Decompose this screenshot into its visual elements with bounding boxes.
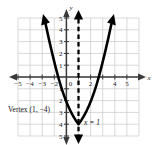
coordinate-plane-svg: −5 −4 −3 −2 0 2 4 5 5 4 3 2 1 1 2 3 4 5 … — [0, 0, 157, 145]
y-tick-label-3: 3 — [59, 38, 63, 46]
parabola-graph-figure: −5 −4 −3 −2 0 2 4 5 5 4 3 2 1 1 2 3 4 5 … — [0, 0, 157, 145]
symmetry-top-arrow — [74, 10, 83, 20]
axis-of-symmetry-annotation-label: x = 1 — [83, 118, 100, 127]
y-axis-label: y — [68, 4, 73, 12]
y-tick-label--4: 4 — [59, 121, 63, 129]
x-axis-right-arrow — [138, 74, 146, 81]
x-tick-label--4: −4 — [26, 80, 34, 88]
vertex-annotation-label: Vertex (1, −4) — [8, 105, 50, 114]
x-tick-label--5: −5 — [14, 80, 22, 88]
x-axis-label: x — [146, 74, 151, 82]
y-tick-label--2: 2 — [59, 97, 63, 105]
y-tick-label-1: 1 — [59, 62, 63, 70]
x-tick-label-2: 2 — [89, 80, 93, 88]
y-tick-label--3: 3 — [59, 109, 63, 117]
x-tick-label--2: −2 — [51, 80, 59, 88]
y-axis-bottom-arrow — [63, 137, 69, 145]
y-tick-label-2: 2 — [59, 50, 63, 58]
x-tick-label-4: 4 — [113, 80, 117, 88]
y-tick-label-5: 5 — [59, 15, 63, 23]
y-tick-label-4: 4 — [59, 26, 63, 34]
x-tick-label--3: −3 — [38, 80, 46, 88]
y-tick-label--5: 5 — [59, 133, 63, 141]
parabola-left-arrow — [41, 14, 50, 26]
x-tick-label-5: 5 — [125, 80, 129, 88]
x-tick-label-0: 0 — [69, 80, 73, 88]
parabola-right-arrow — [107, 14, 116, 26]
symmetry-bottom-arrow — [74, 135, 83, 145]
